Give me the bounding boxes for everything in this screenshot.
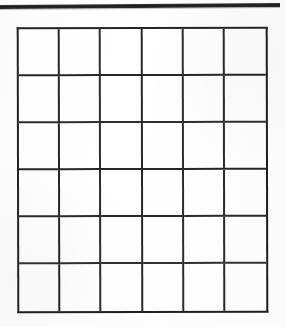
grid-cell-text — [60, 29, 99, 74]
grid-cell[interactable] — [143, 170, 184, 217]
grid-cell[interactable] — [19, 170, 60, 217]
grid-cell-text — [143, 170, 182, 215]
grid-cell[interactable] — [60, 123, 101, 170]
grid-cell-text — [184, 123, 223, 168]
grid-cell[interactable] — [19, 123, 60, 170]
grid-cell-text — [101, 170, 140, 215]
grid-cell-text — [142, 123, 181, 168]
grid-cell[interactable] — [142, 29, 183, 76]
grid-cell-text — [143, 217, 182, 262]
grid-cell-text — [225, 217, 266, 262]
grid-cell[interactable] — [184, 264, 225, 311]
grid-cell-text — [184, 170, 223, 215]
grid-cell-text — [101, 76, 140, 121]
grid-cell[interactable] — [19, 29, 60, 76]
grid-cell[interactable] — [60, 29, 101, 76]
grid-cell[interactable] — [225, 29, 266, 76]
grid-cell-text — [19, 76, 58, 121]
grid-cell-text — [225, 264, 266, 311]
grid-cell-text — [142, 76, 181, 121]
grid-cell[interactable] — [19, 217, 60, 264]
grid-cell[interactable] — [60, 264, 101, 311]
grid-cell-text — [225, 170, 266, 215]
grid-cell[interactable] — [101, 170, 142, 217]
horizontal-rule — [0, 3, 280, 9]
grid-cell-text — [60, 217, 99, 262]
grid-cell[interactable] — [184, 123, 225, 170]
grid-cell[interactable] — [183, 29, 224, 76]
grid-cell[interactable] — [183, 76, 224, 123]
grid-table — [17, 27, 269, 314]
grid-cell[interactable] — [60, 217, 101, 264]
grid-cell-text — [60, 264, 99, 311]
grid-cell-text — [60, 76, 99, 121]
grid-cell-text — [184, 264, 223, 311]
grid-cell-text — [19, 123, 58, 168]
grid-cell-text — [19, 29, 58, 74]
grid-cell-text — [183, 76, 222, 121]
grid-cell-text — [102, 264, 141, 311]
grid-cell[interactable] — [225, 217, 266, 264]
grid-cell-text — [19, 170, 58, 215]
grid-cell[interactable] — [101, 29, 142, 76]
grid-cell[interactable] — [19, 264, 60, 311]
grid-cell-text — [60, 170, 99, 215]
grid-cell-text — [19, 217, 58, 262]
grid-cell[interactable] — [225, 264, 266, 311]
grid-cell[interactable] — [184, 217, 225, 264]
grid-cell-text — [225, 29, 266, 74]
grid-cell-text — [101, 29, 140, 74]
grid-cell[interactable] — [184, 170, 225, 217]
grid-cell[interactable] — [19, 76, 60, 123]
grid-cell[interactable] — [60, 170, 101, 217]
grid-cell[interactable] — [143, 264, 184, 311]
grid-cell[interactable] — [101, 76, 142, 123]
grid-cell[interactable] — [225, 123, 266, 170]
grid-cell-text — [60, 123, 99, 168]
grid-cell[interactable] — [143, 217, 184, 264]
grid-cell-text — [225, 76, 266, 121]
grid-cell[interactable] — [142, 123, 183, 170]
grid-cell[interactable] — [225, 76, 266, 123]
grid-cell-text — [101, 217, 140, 262]
grid-cell[interactable] — [102, 264, 143, 311]
grid-cell-text — [101, 123, 140, 168]
grid-cell-text — [19, 264, 58, 311]
grid-cell-text — [184, 217, 223, 262]
scanned-page — [0, 0, 286, 327]
grid-cell[interactable] — [101, 217, 142, 264]
grid-cell[interactable] — [60, 76, 101, 123]
grid-cell[interactable] — [101, 123, 142, 170]
grid-cell[interactable] — [142, 76, 183, 123]
grid-cell[interactable] — [225, 170, 266, 217]
grid-cell-text — [225, 123, 266, 168]
grid-cell-text — [143, 264, 182, 311]
grid-cell-text — [183, 29, 222, 74]
grid-cell-text — [142, 29, 181, 74]
